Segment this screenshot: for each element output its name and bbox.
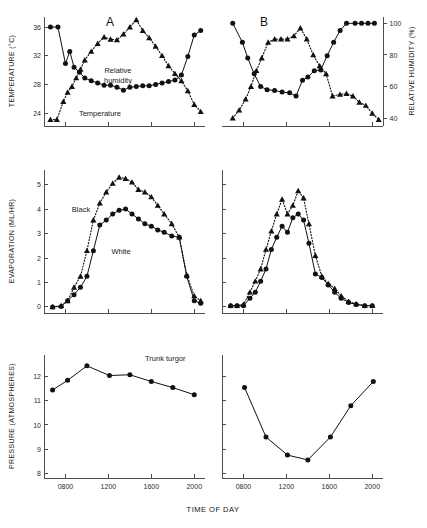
data-point-triangle bbox=[116, 174, 122, 179]
data-point-triangle bbox=[369, 110, 375, 115]
data-point-circle bbox=[172, 78, 177, 83]
chart-panel-b-top: 406080100 bbox=[222, 17, 401, 126]
y-tick-label: 40 bbox=[390, 115, 398, 122]
data-point-circle bbox=[245, 56, 250, 61]
data-point-circle bbox=[155, 227, 160, 232]
y-tick-label: 60 bbox=[390, 83, 398, 90]
data-point-triangle bbox=[263, 246, 269, 251]
data-point-circle bbox=[338, 28, 343, 33]
data-point-triangle bbox=[140, 28, 146, 33]
data-point-circle bbox=[326, 282, 331, 287]
x-tick-label: 1600 bbox=[144, 483, 160, 490]
data-point-circle bbox=[362, 303, 367, 308]
series-line-white bbox=[231, 214, 373, 306]
data-point-circle bbox=[370, 303, 375, 308]
data-point-circle bbox=[354, 302, 359, 307]
data-point-circle bbox=[240, 40, 245, 45]
data-point-circle bbox=[50, 387, 55, 392]
data-point-circle bbox=[313, 271, 318, 276]
data-point-triangle bbox=[290, 202, 296, 207]
data-point-circle bbox=[296, 212, 301, 217]
data-point-triangle bbox=[77, 66, 83, 71]
annotation-relative-humidity-line2: humidity bbox=[104, 76, 132, 85]
data-point-circle bbox=[192, 32, 197, 37]
data-point-circle bbox=[91, 248, 96, 253]
figure-container: 2428323640608010001234589101112080012001… bbox=[0, 0, 427, 528]
data-point-circle bbox=[130, 212, 135, 217]
data-point-circle bbox=[84, 274, 89, 279]
y-tick-label: 100 bbox=[390, 20, 402, 27]
y-tick-label: 9 bbox=[37, 446, 41, 453]
data-point-triangle bbox=[274, 211, 280, 216]
series-line-white bbox=[53, 209, 201, 307]
data-point-circle bbox=[371, 379, 376, 384]
data-point-circle bbox=[149, 379, 154, 384]
data-point-circle bbox=[301, 218, 306, 223]
x-tick-label: 1600 bbox=[322, 483, 338, 490]
data-point-triangle bbox=[363, 102, 369, 107]
data-point-circle bbox=[365, 21, 370, 26]
data-point-circle bbox=[247, 296, 252, 301]
data-point-circle bbox=[149, 224, 154, 229]
data-point-triangle bbox=[295, 188, 301, 193]
data-point-circle bbox=[346, 300, 351, 305]
data-point-circle bbox=[121, 88, 126, 93]
y-axis-title-relative-humidity: RELATIVE HUMIDITY (%) bbox=[408, 26, 416, 115]
data-point-circle bbox=[107, 373, 112, 378]
data-point-circle bbox=[97, 223, 102, 228]
data-point-circle bbox=[253, 290, 258, 295]
data-point-circle bbox=[332, 290, 337, 295]
data-point-circle bbox=[290, 215, 295, 220]
data-point-triangle bbox=[376, 117, 382, 122]
data-point-triangle bbox=[252, 278, 258, 283]
data-point-triangle bbox=[97, 200, 103, 205]
data-point-circle bbox=[140, 83, 145, 88]
x-tick-label: 1200 bbox=[279, 483, 295, 490]
data-point-circle bbox=[65, 298, 70, 303]
x-tick-label: 0800 bbox=[58, 483, 74, 490]
data-point-triangle bbox=[153, 43, 159, 48]
data-point-triangle bbox=[247, 289, 253, 294]
data-point-circle bbox=[63, 61, 68, 66]
data-point-triangle bbox=[259, 55, 265, 60]
data-point-circle bbox=[235, 303, 240, 308]
chart-panel-a-middle: 012345 bbox=[37, 170, 205, 313]
x-axis-title-time-of-day: TIME OF DAY bbox=[187, 505, 240, 514]
data-point-circle bbox=[162, 230, 167, 235]
data-point-circle bbox=[184, 274, 189, 279]
series-line-black bbox=[231, 191, 373, 306]
y-tick-label: 36 bbox=[33, 24, 41, 31]
data-point-circle bbox=[72, 65, 77, 70]
data-point-circle bbox=[134, 84, 139, 89]
y-tick-label: 24 bbox=[33, 110, 41, 117]
data-point-circle bbox=[147, 83, 152, 88]
data-point-circle bbox=[230, 21, 235, 26]
y-tick-label: 80 bbox=[390, 52, 398, 59]
x-tick-label: 2000 bbox=[364, 483, 380, 490]
data-point-circle bbox=[353, 21, 358, 26]
data-point-circle bbox=[55, 25, 60, 30]
data-point-triangle bbox=[253, 68, 259, 73]
data-point-triangle bbox=[243, 96, 249, 101]
data-point-circle bbox=[306, 241, 311, 246]
data-point-circle bbox=[127, 85, 132, 90]
data-point-triangle bbox=[84, 248, 90, 253]
data-point-triangle bbox=[268, 228, 274, 233]
data-point-triangle bbox=[265, 39, 271, 44]
data-point-circle bbox=[285, 453, 290, 458]
data-point-circle bbox=[110, 212, 115, 217]
axis-titles: TEMPERATURE (°C)RELATIVE HUMIDITY (%)EVA… bbox=[8, 26, 416, 514]
data-point-circle bbox=[160, 80, 165, 85]
data-point-circle bbox=[104, 218, 109, 223]
data-point-triangle bbox=[236, 107, 242, 112]
data-point-circle bbox=[242, 385, 247, 390]
data-point-triangle bbox=[165, 63, 171, 68]
data-point-circle bbox=[305, 457, 310, 462]
data-point-triangle bbox=[69, 84, 75, 89]
data-point-circle bbox=[348, 403, 353, 408]
data-point-triangle bbox=[312, 253, 318, 258]
data-point-triangle bbox=[310, 52, 316, 57]
data-point-triangle bbox=[301, 195, 307, 200]
data-point-circle bbox=[265, 87, 270, 92]
y-tick-label: 32 bbox=[33, 52, 41, 59]
